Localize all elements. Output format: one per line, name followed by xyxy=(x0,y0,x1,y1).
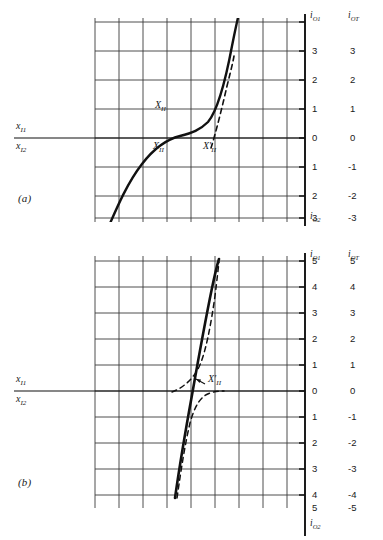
tick-right-a-3: 0 xyxy=(350,132,355,143)
figure-container: (a) xyxy=(0,0,383,540)
tick-left-b-3: 2 xyxy=(312,333,317,344)
tick-right-a-1: 2 xyxy=(350,74,355,85)
panel-b: (b) xyxy=(0,248,383,540)
tick-left-a-4: 1 xyxy=(312,161,317,172)
grid-horizontal-b xyxy=(95,261,305,495)
tick-left-a-3: 0 xyxy=(312,132,317,143)
tick-left-b-4: 1 xyxy=(312,359,317,370)
tick-left-b-7: 2 xyxy=(312,437,317,448)
curve-label-xii-upper-a: XII xyxy=(155,99,166,113)
tick-left-b-8: 3 xyxy=(312,463,317,474)
tick-left-a-1: 2 xyxy=(312,74,317,85)
tick-right-b-8: -3 xyxy=(348,463,356,474)
tick-right-b-6: -1 xyxy=(348,411,356,422)
axis-name-io1-a: iO1 xyxy=(310,10,321,22)
label-arrowhead-b xyxy=(196,379,201,383)
side-label-xi1-a: xI1 xyxy=(16,120,26,134)
tick-right-b-3: 2 xyxy=(350,333,355,344)
axis-name-iot-a: iOT xyxy=(348,10,359,22)
tick-right-a-6: -3 xyxy=(348,212,356,223)
tick-left-b-0: 5 xyxy=(312,255,317,266)
tick-right-a-0: 3 xyxy=(350,45,355,56)
panel-a-plot xyxy=(0,0,383,250)
side-label-xi1-b: xI1 xyxy=(16,373,26,387)
tick-left-b-9: 4 xyxy=(312,489,317,500)
tick-left-b-6: 1 xyxy=(312,411,317,422)
tick-right-b-4: 1 xyxy=(350,359,355,370)
curve-label-xii-lower-a: XII xyxy=(153,140,164,154)
tick-right-a-5: -2 xyxy=(348,190,356,201)
tick-left-a-5: 2 xyxy=(312,190,317,201)
side-label-xi2-a: xI2 xyxy=(16,140,26,154)
tick-left-a-0: 3 xyxy=(312,45,317,56)
tick-right-a-4: -1 xyxy=(348,161,356,172)
tick-left-b-1: 4 xyxy=(312,281,317,292)
dashed-branch-a xyxy=(211,56,234,148)
tick-right-b-0: 5 xyxy=(350,255,355,266)
side-label-xi2-b: xI2 xyxy=(16,393,26,407)
transfer-curve-a xyxy=(108,10,240,228)
tick-right-b-2: 3 xyxy=(350,307,355,318)
tick-right-b-1: 4 xyxy=(350,281,355,292)
panel-a: (a) xyxy=(0,0,383,250)
panel-b-plot xyxy=(0,248,383,540)
tick-left-a-2: 1 xyxy=(312,103,317,114)
curve-label-xii-prime-a: X′II xyxy=(203,140,216,154)
tick-left-b-2: 3 xyxy=(312,307,317,318)
curve-label-xii-prime-b: X′II xyxy=(208,373,221,387)
tick-right-b-7: -2 xyxy=(348,437,356,448)
tick-left-b-5: 0 xyxy=(312,385,317,396)
tick-left-b-10: 5 xyxy=(312,502,317,513)
axis-name-io2-b: iO2 xyxy=(310,518,321,530)
tick-right-a-2: 1 xyxy=(350,103,355,114)
tick-right-b-9: -4 xyxy=(348,489,356,500)
tick-right-b-5: 0 xyxy=(350,385,355,396)
grid-vertical-b xyxy=(95,256,287,508)
tick-left-a-6: 3 xyxy=(312,212,317,223)
tick-right-b-10: -5 xyxy=(348,502,356,513)
